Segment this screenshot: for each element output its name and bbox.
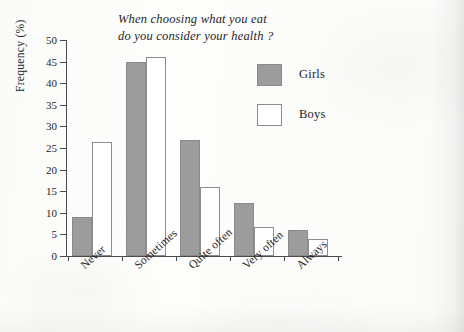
bar-chart: When choosing what you eat do you consid… <box>0 0 464 332</box>
chart-title-line-1: When choosing what you eat <box>118 11 418 28</box>
y-axis-tick-label: 40 <box>46 78 57 89</box>
legend-swatch-boys-icon <box>257 104 282 126</box>
y-axis-tick-label: 0 <box>52 251 58 262</box>
bar-girls-sometimes <box>126 62 146 256</box>
bar-girls-quite-often <box>180 140 200 256</box>
x-axis-tick-mark <box>230 256 231 261</box>
bar-boys-never <box>92 142 112 256</box>
y-axis-tick-label: 5 <box>52 229 58 240</box>
y-axis-tick-label: 45 <box>46 56 57 67</box>
y-axis-tick-mark <box>60 256 66 257</box>
y-axis-tick-mark <box>60 83 66 84</box>
x-axis-tick-mark <box>68 256 69 261</box>
legend-label-boys: Boys <box>299 107 326 122</box>
y-axis-tick-label: 10 <box>46 207 57 218</box>
x-axis-tick-mark <box>176 256 177 261</box>
y-axis-tick-label: 35 <box>46 99 57 110</box>
y-axis-tick-mark <box>60 191 66 192</box>
x-axis-tick-mark <box>338 256 339 261</box>
y-axis-tick-mark <box>60 148 66 149</box>
bar-girls-never <box>72 217 92 256</box>
y-axis-tick-label: 20 <box>46 164 57 175</box>
y-axis-tick-mark <box>60 62 66 63</box>
bar-boys-sometimes <box>146 57 166 256</box>
y-axis-tick-mark <box>60 170 66 171</box>
y-axis-tick-mark <box>60 234 66 235</box>
x-axis-tick-mark <box>284 256 285 261</box>
legend-swatch-girls-icon <box>257 64 282 86</box>
y-axis-tick-label: 50 <box>46 35 57 46</box>
y-axis-tick-mark <box>60 40 66 41</box>
legend-label-girls: Girls <box>299 67 325 82</box>
x-axis-tick-mark <box>122 256 123 261</box>
y-axis-tick-mark <box>60 126 66 127</box>
y-axis-tick-mark <box>60 213 66 214</box>
y-axis-tick-label: 25 <box>46 143 57 154</box>
y-axis-title: Frequency (%) <box>14 19 26 92</box>
bar-girls-very-often <box>234 203 254 256</box>
y-axis-tick-mark <box>60 105 66 106</box>
y-axis-tick-label: 30 <box>46 121 57 132</box>
y-axis-tick-label: 15 <box>46 186 57 197</box>
